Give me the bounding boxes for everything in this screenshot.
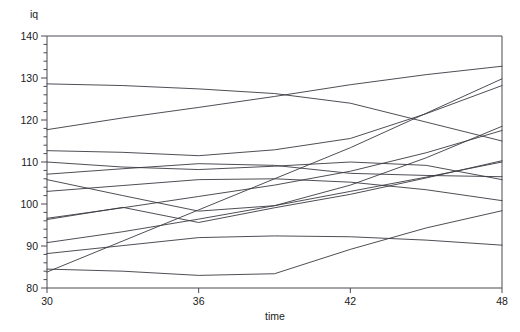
y-tick-label: 100: [20, 198, 38, 210]
y-tick-label: 80: [26, 282, 38, 294]
x-tick-label: 42: [344, 295, 356, 307]
y-tick-label: 140: [20, 30, 38, 42]
x-axis-title: time: [265, 310, 285, 322]
spaghetti-line-chart: 8090100110120130140 30364248 iq time: [0, 0, 520, 332]
x-tick-label: 36: [193, 295, 205, 307]
x-tick-label: 48: [496, 295, 508, 307]
chart-background: [0, 0, 520, 332]
y-axis-title: iq: [30, 8, 38, 20]
y-tick-label: 130: [20, 72, 38, 84]
y-tick-label: 110: [21, 156, 38, 168]
x-tick-label: 30: [41, 295, 53, 307]
chart-page: 8090100110120130140 30364248 iq time: [0, 0, 520, 332]
y-tick-label: 90: [26, 240, 38, 252]
y-tick-label: 120: [20, 114, 38, 126]
